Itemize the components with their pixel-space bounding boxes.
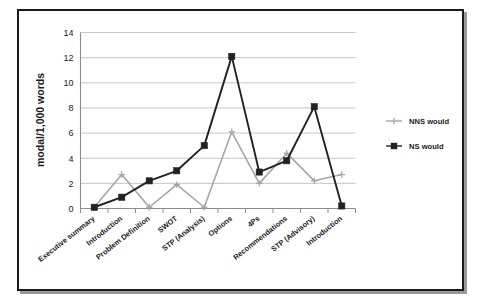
line-chart: 02468101214modal/1,000 wordsExecutive su… — [0, 0, 486, 303]
data-point-marker — [174, 168, 180, 174]
y-tick-label: 4 — [68, 154, 73, 164]
y-tick-label: 14 — [63, 28, 73, 38]
data-point-marker — [339, 203, 345, 209]
y-tick-label: 2 — [68, 179, 73, 189]
y-tick-label: 6 — [68, 128, 73, 138]
y-axis-title: modal/1,000 words — [34, 73, 46, 167]
x-category-label: Options — [206, 214, 234, 238]
series-ns-would — [91, 53, 345, 210]
data-point-marker — [201, 143, 207, 149]
x-ticks — [81, 209, 356, 214]
y-tick-label: 10 — [63, 78, 73, 88]
y-tick-label: 8 — [68, 103, 73, 113]
series-line — [94, 132, 342, 207]
data-point-marker — [229, 53, 235, 59]
x-category-label: SWOT — [156, 214, 179, 235]
legend-marker — [391, 143, 397, 149]
data-point-marker — [146, 178, 152, 184]
data-point-marker — [256, 169, 262, 175]
data-point-marker — [119, 194, 125, 200]
data-point-marker — [311, 104, 317, 110]
chart-legend: NNS wouldNS would — [386, 117, 449, 151]
x-category-labels: Executive summaryIntroductionProblem Def… — [36, 213, 344, 263]
chart-figure: 02468101214modal/1,000 wordsExecutive su… — [0, 0, 486, 303]
data-point-marker — [91, 204, 97, 210]
series-nns-would — [91, 129, 345, 211]
series-line — [94, 56, 342, 207]
gridlines: 02468101214 — [63, 28, 355, 214]
legend-label: NNS would — [409, 117, 449, 126]
y-tick-label: 12 — [63, 53, 73, 63]
x-category-label: 4Ps — [246, 214, 262, 229]
legend-label: NS would — [409, 142, 444, 151]
data-point-marker — [284, 158, 290, 164]
y-tick-label: 0 — [68, 204, 73, 214]
